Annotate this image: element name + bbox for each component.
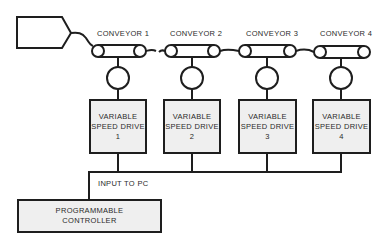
drive-1-line1: VARIABLE	[99, 112, 138, 122]
controller-line1: PROGRAMMABLE	[56, 206, 124, 216]
drive-1-number: 1	[116, 132, 120, 142]
conveyor-1-label: CONVEYOR 1	[97, 30, 149, 38]
drive-3-line2: SPEED DRIVE	[241, 122, 295, 132]
drive-3-number: 3	[265, 132, 269, 142]
motor-3-icon	[256, 67, 278, 89]
conveyor-2-label: CONVEYOR 2	[170, 30, 222, 38]
variable-speed-drive-1: VARIABLE SPEED DRIVE 1	[89, 99, 147, 154]
motor-2-icon	[181, 67, 203, 89]
drive-2-line2: SPEED DRIVE	[165, 122, 219, 132]
controller-line2: CONTROLLER	[62, 216, 116, 226]
drive-1-line2: SPEED DRIVE	[91, 122, 145, 132]
motor-4-icon	[330, 67, 352, 89]
variable-speed-drive-2: VARIABLE SPEED DRIVE 2	[163, 99, 221, 154]
conveyor-3-belt-icon	[239, 45, 296, 57]
programmable-controller: PROGRAMMABLE CONTROLLER	[17, 199, 162, 233]
drive-3-line1: VARIABLE	[248, 112, 287, 122]
variable-speed-drive-3: VARIABLE SPEED DRIVE 3	[238, 99, 297, 154]
conveyor-4-belt-icon	[314, 46, 370, 58]
feed-line	[71, 33, 93, 46]
input-to-pc-label: INPUT TO PC	[98, 180, 148, 188]
variable-speed-drive-4: VARIABLE SPEED DRIVE 4	[312, 99, 371, 154]
motor-1-icon	[107, 67, 129, 89]
drive-4-number: 4	[339, 132, 343, 142]
drive-2-line1: VARIABLE	[173, 112, 212, 122]
drive-4-line2: SPEED DRIVE	[315, 122, 369, 132]
conveyor-2-belt-icon	[165, 45, 220, 57]
drive-2-number: 2	[190, 132, 194, 142]
drive-4-line1: VARIABLE	[322, 112, 361, 122]
conveyor-3-label: CONVEYOR 3	[246, 30, 298, 38]
feed-hopper-icon	[17, 17, 71, 48]
conveyor-1-belt-icon	[92, 45, 146, 57]
conveyor-4-label: CONVEYOR 4	[320, 30, 372, 38]
